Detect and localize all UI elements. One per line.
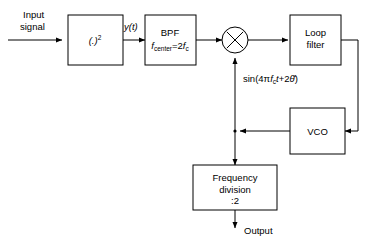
vco-label: VCO xyxy=(307,126,328,137)
vco-signal-expression-label: sin(4πfct+2θ̂) xyxy=(243,73,298,85)
diagram-canvas: (.)2 BPF fcenter=2fc Loop filter VCO Fre… xyxy=(0,0,374,242)
frequency-division-ratio-label: :2 xyxy=(231,195,239,206)
output-label: Output xyxy=(244,225,273,236)
frequency-division-label-line1: Frequency xyxy=(213,172,258,183)
input-signal-label-line1: Input xyxy=(23,9,44,20)
input-signal-label-line2: signal xyxy=(20,21,45,32)
wire-junction-dot xyxy=(233,129,236,132)
loop-filter-label-line1: Loop xyxy=(305,27,326,38)
bpf-label: BPF xyxy=(161,27,180,38)
block-diagram: (.)2 BPF fcenter=2fc Loop filter VCO Fre… xyxy=(0,0,374,242)
y-of-t-label: y(t) xyxy=(123,21,138,32)
loop-filter-label-line2: filter xyxy=(307,39,325,50)
frequency-division-label-line2: division xyxy=(219,184,251,195)
